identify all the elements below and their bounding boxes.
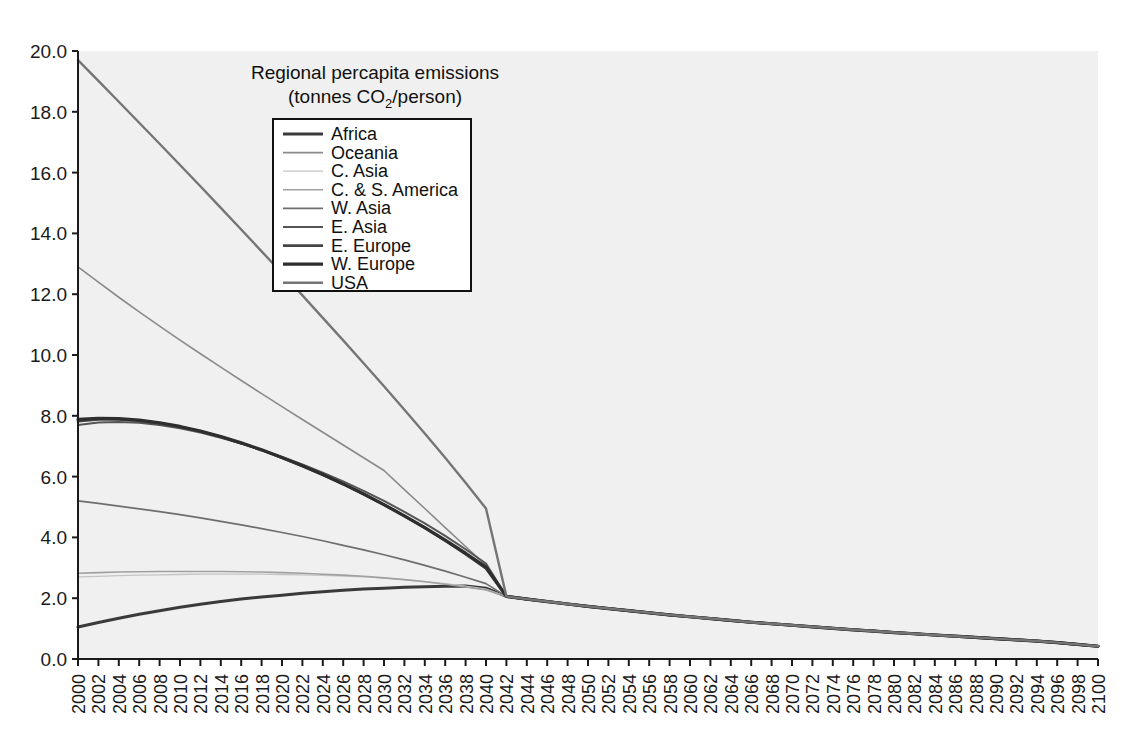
- x-tick-label: 2098: [1069, 674, 1089, 714]
- x-tick-label: 2082: [905, 674, 925, 714]
- x-tick-label: 2026: [334, 674, 354, 714]
- x-tick-label: 2096: [1048, 674, 1068, 714]
- x-tick-label: 2028: [355, 674, 375, 714]
- x-tick-label: 2004: [110, 674, 130, 714]
- x-tick-label: 2008: [151, 674, 171, 714]
- x-tick-label: 2070: [783, 674, 803, 714]
- y-tick-label: 10.0: [30, 345, 67, 366]
- legend-label: E. Asia: [331, 217, 388, 237]
- plot-background: [78, 51, 1098, 659]
- chart-legend[interactable]: AfricaOceaniaC. AsiaC. & S. AmericaW. As…: [273, 119, 471, 293]
- x-tick-label: 2068: [763, 674, 783, 714]
- x-tick-label: 2018: [253, 674, 273, 714]
- y-tick-labels: 0.02.04.06.08.010.012.014.016.018.020.0: [30, 41, 67, 670]
- x-tick-label: 2080: [885, 674, 905, 714]
- x-tick-label: 2058: [661, 674, 681, 714]
- x-tick-label: 2024: [314, 674, 334, 714]
- x-tick-label: 2046: [538, 674, 558, 714]
- chart-subtitle-subscript: 2: [385, 96, 392, 111]
- x-tick-label: 2020: [273, 674, 293, 714]
- legend-label: E. Europe: [331, 236, 411, 256]
- legend-label: C. & S. America: [331, 180, 459, 200]
- x-tick-label: 2084: [926, 674, 946, 714]
- x-tick-labels: 2000200220042006200820102012201420162018…: [69, 674, 1109, 714]
- x-tick-label: 2094: [1028, 674, 1048, 714]
- x-tick-label: 2056: [640, 674, 660, 714]
- x-tick-label: 2006: [130, 674, 150, 714]
- x-tick-label: 2010: [171, 674, 191, 714]
- x-tick-label: 2090: [987, 674, 1007, 714]
- x-tick-label: 2038: [457, 674, 477, 714]
- legend-label: USA: [331, 273, 368, 293]
- emissions-line-chart: 0.02.04.06.08.010.012.014.016.018.020.0 …: [0, 0, 1126, 748]
- x-tick-label: 2042: [497, 674, 517, 714]
- x-tick-label: 2078: [865, 674, 885, 714]
- x-tick-label: 2030: [375, 674, 395, 714]
- y-tick-label: 14.0: [30, 223, 67, 244]
- x-tick-label: 2076: [844, 674, 864, 714]
- x-tick-label: 2016: [232, 674, 252, 714]
- x-tick-label: 2036: [436, 674, 456, 714]
- x-tick-label: 2050: [579, 674, 599, 714]
- x-tick-label: 2074: [824, 674, 844, 714]
- x-tick-label: 2032: [395, 674, 415, 714]
- y-tick-label: 20.0: [30, 41, 67, 62]
- x-tick-label: 2022: [293, 674, 313, 714]
- y-tick-label: 18.0: [30, 102, 67, 123]
- legend-label: Africa: [331, 124, 378, 144]
- x-tick-label: 2044: [518, 674, 538, 714]
- x-tick-label: 2088: [967, 674, 987, 714]
- x-tick-label: 2034: [416, 674, 436, 714]
- chart-subtitle-prefix: (tonnes CO: [288, 86, 385, 107]
- x-tick-label: 2092: [1007, 674, 1027, 714]
- x-tick-label: 2012: [191, 674, 211, 714]
- y-tick-label: 0.0: [41, 649, 67, 670]
- x-tick-label: 2054: [620, 674, 640, 714]
- x-tick-label: 2014: [212, 674, 232, 714]
- x-tick-label: 2086: [946, 674, 966, 714]
- legend-label: Oceania: [331, 143, 399, 163]
- chart-title: Regional percapita emissions: [251, 62, 499, 83]
- chart-container: 0.02.04.06.08.010.012.014.016.018.020.0 …: [0, 0, 1126, 748]
- x-tick-label: 2000: [69, 674, 89, 714]
- chart-subtitle-suffix: /person): [392, 86, 462, 107]
- y-tick-label: 2.0: [41, 588, 67, 609]
- x-tick-label: 2048: [559, 674, 579, 714]
- x-tick-label: 2062: [701, 674, 721, 714]
- y-tick-label: 16.0: [30, 163, 67, 184]
- x-tick-label: 2072: [803, 674, 823, 714]
- x-tick-label: 2052: [599, 674, 619, 714]
- x-tick-label: 2060: [681, 674, 701, 714]
- legend-label: W. Asia: [331, 198, 392, 218]
- legend-label: W. Europe: [331, 254, 415, 274]
- y-tick-label: 6.0: [41, 467, 67, 488]
- legend-label: C. Asia: [331, 161, 389, 181]
- x-tick-label: 2040: [477, 674, 497, 714]
- y-tick-label: 4.0: [41, 527, 67, 548]
- y-tick-label: 8.0: [41, 406, 67, 427]
- x-tick-label: 2066: [742, 674, 762, 714]
- x-tick-label: 2100: [1089, 674, 1109, 714]
- y-tick-label: 12.0: [30, 284, 67, 305]
- x-tick-label: 2002: [89, 674, 109, 714]
- x-tick-label: 2064: [722, 674, 742, 714]
